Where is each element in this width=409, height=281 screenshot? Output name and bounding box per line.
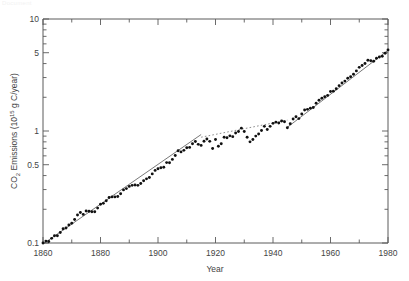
x-tick-label: 1860 bbox=[34, 248, 53, 258]
data-point bbox=[151, 172, 154, 175]
data-point bbox=[223, 136, 226, 139]
data-point bbox=[283, 120, 286, 123]
data-point bbox=[214, 138, 217, 141]
data-point bbox=[113, 195, 116, 198]
y-tick-label: 10 bbox=[30, 14, 40, 24]
data-point bbox=[73, 218, 76, 221]
data-point bbox=[228, 134, 231, 137]
data-point bbox=[211, 147, 214, 150]
data-point bbox=[315, 102, 318, 105]
co2-emissions-log-scatter-chart: 0.10.51510 1860188019001920194019601980 … bbox=[0, 0, 409, 281]
data-point bbox=[366, 59, 369, 62]
y-tick-label: 0.5 bbox=[27, 160, 39, 170]
data-point bbox=[341, 82, 344, 85]
data-point-markers bbox=[42, 48, 390, 244]
y-tick-label: 0.1 bbox=[27, 238, 39, 248]
data-point bbox=[88, 210, 91, 213]
data-point bbox=[162, 166, 165, 169]
data-point bbox=[99, 203, 102, 206]
data-point bbox=[240, 127, 243, 130]
data-point bbox=[364, 62, 367, 65]
data-point bbox=[381, 55, 384, 58]
data-point bbox=[171, 158, 174, 161]
data-point bbox=[44, 240, 47, 243]
data-point bbox=[349, 75, 352, 78]
data-point bbox=[125, 187, 128, 190]
data-point bbox=[375, 57, 378, 60]
data-point bbox=[234, 132, 237, 135]
data-point bbox=[102, 202, 105, 205]
data-point bbox=[47, 240, 50, 243]
axis-frame-path bbox=[43, 19, 388, 243]
y-axis-title: CO2 Emissions (1015 g C/year) bbox=[9, 73, 21, 189]
data-point bbox=[93, 210, 96, 213]
data-point bbox=[62, 227, 65, 230]
data-point bbox=[246, 136, 249, 139]
data-point bbox=[352, 73, 355, 76]
data-point bbox=[180, 150, 183, 153]
data-point bbox=[369, 59, 372, 62]
data-point bbox=[384, 52, 387, 55]
data-point bbox=[59, 231, 62, 234]
data-point bbox=[50, 237, 53, 240]
data-point bbox=[90, 210, 93, 213]
data-point bbox=[174, 154, 177, 157]
data-point bbox=[53, 234, 56, 237]
data-point bbox=[329, 90, 332, 93]
x-tick-label: 1880 bbox=[91, 248, 110, 258]
data-point bbox=[70, 222, 73, 225]
data-point bbox=[188, 146, 191, 149]
data-point bbox=[136, 184, 139, 187]
data-point bbox=[332, 90, 335, 93]
data-point bbox=[76, 214, 79, 217]
plot-frame bbox=[43, 19, 388, 243]
faint-scan-header: Document bbox=[2, 0, 32, 6]
y-tick-label: 5 bbox=[34, 48, 39, 58]
data-point bbox=[142, 179, 145, 182]
data-point bbox=[139, 182, 142, 185]
data-point bbox=[269, 125, 272, 128]
data-point bbox=[119, 192, 122, 195]
data-point bbox=[272, 122, 275, 125]
data-point bbox=[182, 149, 185, 152]
data-point bbox=[226, 136, 229, 139]
data-point bbox=[177, 149, 180, 152]
data-point bbox=[277, 121, 280, 124]
data-point bbox=[300, 112, 303, 115]
data-point bbox=[387, 48, 390, 51]
data-point bbox=[208, 140, 211, 143]
data-point bbox=[157, 167, 160, 170]
x-axis-title: Year bbox=[206, 264, 223, 274]
data-point bbox=[128, 185, 131, 188]
data-point bbox=[289, 122, 292, 125]
data-point bbox=[306, 108, 309, 111]
data-point bbox=[217, 145, 220, 148]
data-point bbox=[346, 77, 349, 80]
trend-line bbox=[201, 120, 287, 137]
y-axis-ticks bbox=[43, 19, 388, 243]
data-point bbox=[165, 161, 168, 164]
data-point bbox=[191, 142, 194, 145]
data-point bbox=[85, 210, 88, 213]
y-axis-title-group: CO2 Emissions (1015 g C/year) bbox=[9, 73, 21, 189]
data-point bbox=[243, 130, 246, 133]
data-point bbox=[148, 176, 151, 179]
y-axis-tick-labels: 0.10.51510 bbox=[27, 14, 39, 248]
x-tick-label: 1900 bbox=[149, 248, 168, 258]
data-point bbox=[145, 177, 148, 180]
x-tick-label: 1960 bbox=[321, 248, 340, 258]
data-point bbox=[297, 117, 300, 120]
data-point bbox=[312, 106, 315, 109]
data-point bbox=[154, 169, 157, 172]
data-point bbox=[361, 64, 364, 67]
trend-fit-lines bbox=[43, 50, 388, 244]
data-point bbox=[67, 223, 70, 226]
data-point bbox=[378, 56, 381, 59]
data-point bbox=[251, 138, 254, 141]
data-point bbox=[326, 94, 329, 97]
data-point bbox=[318, 99, 321, 102]
x-tick-label: 1980 bbox=[379, 248, 398, 258]
y-tick-label: 1 bbox=[34, 126, 39, 136]
data-point bbox=[197, 143, 200, 146]
data-point bbox=[42, 242, 45, 245]
